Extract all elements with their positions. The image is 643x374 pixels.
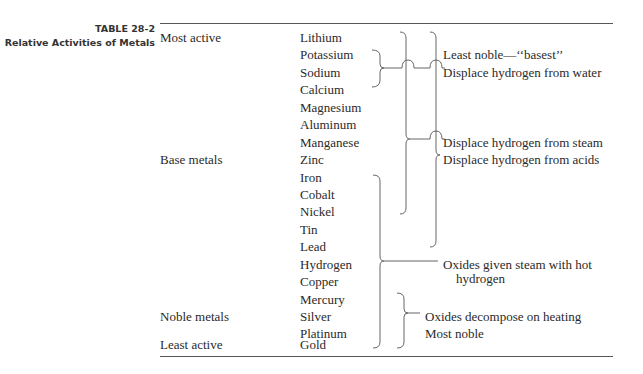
bracket-iron-gold [373,175,384,348]
bracket-lithium-lead [430,32,440,247]
bracket-lithium-nickel [400,32,410,214]
brackets-diagram [0,0,643,374]
bracket-potassium-calcium [372,50,384,87]
connector-steam [410,131,445,139]
bracket-mercury-gold [397,293,408,348]
